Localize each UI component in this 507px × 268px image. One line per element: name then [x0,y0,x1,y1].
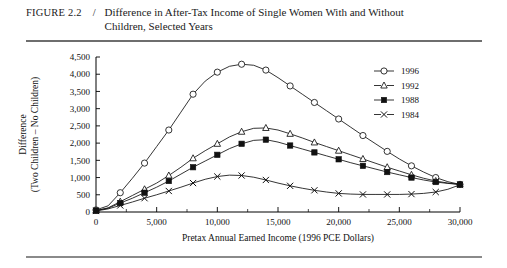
figure-separator: / [93,6,96,18]
x-axis-title: Pretax Annual Earned Income (1996 PCE Do… [182,233,374,244]
marker-filled-square [190,165,195,170]
x-tick-label: 30,000 [448,217,473,227]
marker-open-circle [381,68,387,74]
marker-open-circle [214,69,220,75]
series-line-1988 [96,140,460,211]
legend-label-1992: 1992 [401,81,419,91]
marker-filled-square [215,152,220,157]
marker-filled-square [381,97,386,102]
marker-open-circle [311,99,317,105]
figure-title: Difference in After-Tax Income of Single… [105,6,435,33]
marker-filled-square [409,175,414,180]
marker-filled-square [263,137,268,142]
marker-cross [190,180,196,186]
footer-clipped-text [26,259,326,267]
y-tick-label: 3,500 [70,87,91,97]
marker-open-triangle [166,172,172,178]
marker-open-circle [239,61,245,67]
legend-label-1984: 1984 [401,110,420,120]
y-tick-label: 0 [86,207,91,217]
marker-open-triangle [190,155,196,161]
footer-divider [26,256,482,258]
x-tick-label: 5,000 [147,217,168,227]
marker-filled-square [239,141,244,146]
header-divider [26,40,482,42]
marker-open-triangle [214,140,220,146]
legend-label-1988: 1988 [401,95,420,105]
chart-area: 05001,0001,5002,0002,5003,0003,5004,0004… [0,44,507,249]
marker-filled-square [433,179,438,184]
series-1988 [93,137,462,213]
y-tick-label: 2,500 [70,121,91,131]
marker-open-circle [166,127,172,133]
marker-cross [141,195,147,201]
marker-open-triangle [381,82,387,88]
marker-open-circle [384,148,390,154]
x-tick-label: 25,000 [387,217,412,227]
marker-open-circle [263,67,269,73]
y-axis-title-line2: (Two Children – No Children) [30,77,41,192]
marker-filled-square [336,157,341,162]
y-axis-title-line1: Difference [18,114,28,154]
figure-container: FIGURE 2.2 / Difference in After-Tax Inc… [0,0,507,268]
legend-label-1996: 1996 [401,66,420,76]
marker-filled-square [385,169,390,174]
marker-open-circle [287,83,293,89]
x-tick-label: 15,000 [266,217,291,227]
marker-cross [263,177,269,183]
y-tick-label: 500 [77,190,91,200]
series-line-1992 [96,128,460,211]
series-1992 [93,124,463,213]
marker-filled-square [312,150,317,155]
marker-open-circle [360,132,366,138]
marker-filled-square [166,178,171,183]
x-tick-label: 10,000 [205,217,230,227]
figure-header: FIGURE 2.2 / Difference in After-Tax Inc… [26,6,482,33]
marker-cross [381,111,387,117]
y-tick-label: 4,000 [70,69,91,79]
series-line-1984 [96,175,460,211]
marker-open-circle [190,91,196,97]
marker-open-circle [117,190,123,196]
marker-open-triangle [263,124,269,130]
marker-open-circle [408,163,414,169]
marker-open-circle [141,160,147,166]
figure-number: FIGURE 2.2 [26,6,82,18]
line-chart: 05001,0001,5002,0002,5003,0003,5004,0004… [0,44,507,249]
y-tick-label: 2,000 [70,138,91,148]
x-tick-label: 0 [94,217,99,227]
y-tick-label: 1,500 [70,156,91,166]
x-tick-label: 20,000 [326,217,351,227]
marker-filled-square [287,143,292,148]
marker-filled-square [142,190,147,195]
y-tick-label: 4,500 [70,52,91,62]
y-tick-label: 3,000 [70,104,91,114]
y-tick-label: 1,000 [70,173,91,183]
marker-open-circle [336,116,342,122]
marker-filled-square [360,163,365,168]
chart-legend: 1996199219881984 [374,66,420,120]
marker-cross [166,188,172,194]
